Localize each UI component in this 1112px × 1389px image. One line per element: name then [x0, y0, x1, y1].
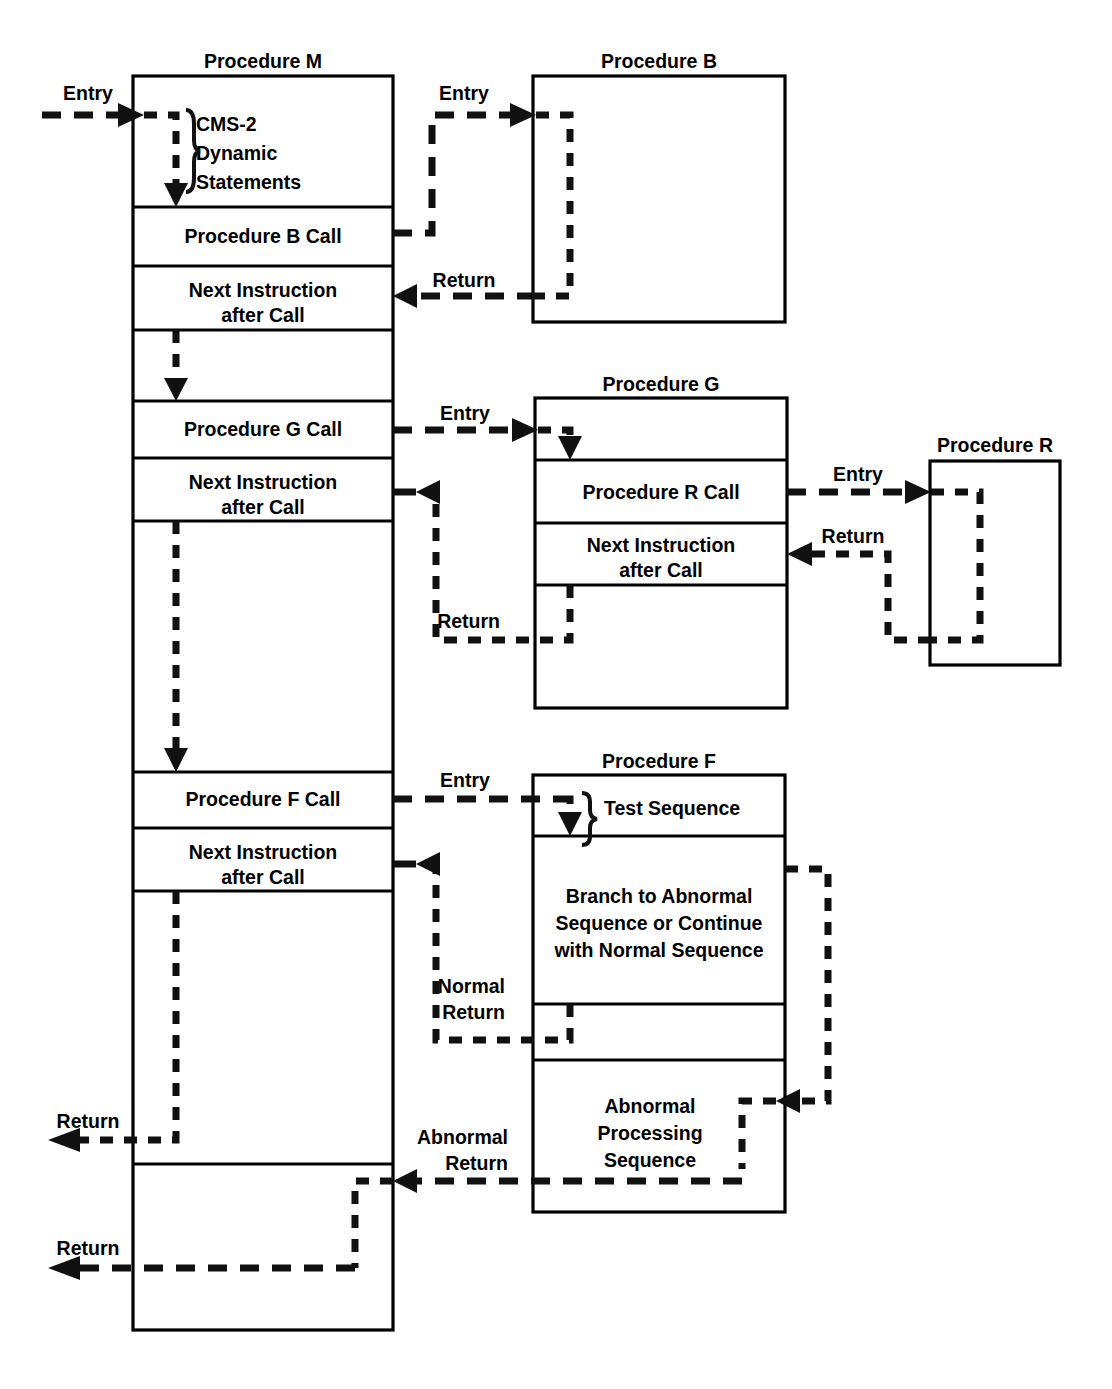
m-cell-procedure-f-call: Procedure F Call — [186, 788, 341, 810]
diagram-canvas: Procedure M CMS-2 Dynamic Statements Pro… — [0, 0, 1112, 1389]
flow-label-return-m-upper: Return — [57, 1110, 120, 1132]
flow-label-return-b: Return — [433, 269, 496, 291]
procedure-b-title: Procedure B — [601, 50, 717, 72]
flow-label-return-m-lower: Return — [57, 1237, 120, 1259]
m-cell-dynamic-line3: Statements — [196, 171, 301, 193]
f-cell-abnormal-line3: Sequence — [604, 1149, 696, 1171]
f-cell-branch-line1: Branch to Abnormal — [566, 885, 753, 907]
f-cell-branch-line3: with Normal Sequence — [553, 939, 763, 961]
f-cell-abnormal-line1: Abnormal — [604, 1095, 695, 1117]
procedure-m-title: Procedure M — [204, 50, 322, 72]
arrowhead-return-m-lower — [48, 1256, 80, 1280]
flow-label-entry-b: Entry — [439, 82, 489, 104]
flow-line-branch-abnormal — [785, 869, 828, 1101]
flow-label-entry-r: Entry — [833, 463, 883, 485]
f-cell-abnormal-line2: Processing — [597, 1122, 702, 1144]
flow-label-abnormal-return-line1: Abnormal — [417, 1126, 508, 1148]
flow-return-b: Return — [393, 269, 536, 308]
g-cell-next-instruction-line1: Next Instruction — [587, 534, 735, 556]
m-cell-next-instruction-1-line1: Next Instruction — [189, 279, 337, 301]
procedure-g-group: Procedure G Procedure R Call Next Instru… — [535, 373, 787, 708]
m-cell-next-instruction-1-line2: after Call — [221, 304, 304, 326]
arrowhead-return-b — [393, 284, 417, 308]
flow-label-abnormal-return-line2: Return — [445, 1152, 508, 1174]
m-cell-next-instruction-3-line1: Next Instruction — [189, 841, 337, 863]
procedure-f-box — [533, 775, 785, 1212]
flow-label-entry-g: Entry — [440, 402, 490, 424]
procedure-r-title: Procedure R — [937, 434, 1053, 456]
g-cell-next-instruction-line2: after Call — [619, 559, 702, 581]
arrowhead-return-r — [787, 542, 812, 566]
flow-label-normal-return-line2: Return — [442, 1001, 505, 1023]
procedure-r-box — [930, 461, 1060, 665]
procedure-f-title: Procedure F — [602, 750, 716, 772]
arrowhead-normal-return — [416, 852, 440, 876]
arrowhead-entry-r — [905, 480, 931, 504]
m-cell-procedure-g-call: Procedure G Call — [184, 418, 342, 440]
procedure-flow-diagram: Procedure M CMS-2 Dynamic Statements Pro… — [0, 0, 1112, 1389]
flow-line-return-r — [812, 554, 931, 640]
procedure-r-group: Procedure R — [930, 434, 1060, 665]
f-cell-branch-line2: Sequence or Continue — [556, 912, 763, 934]
m-cell-next-instruction-2-line1: Next Instruction — [189, 471, 337, 493]
flow-label-entry-m: Entry — [63, 82, 113, 104]
arrowhead-return-g — [416, 480, 440, 504]
flow-line-entry-b — [393, 115, 510, 233]
flow-label-return-r: Return — [822, 525, 885, 547]
flow-return-r: Return — [787, 525, 931, 640]
flow-label-normal-return-line1: Normal — [438, 975, 505, 997]
m-cell-procedure-b-call: Procedure B Call — [184, 225, 341, 247]
procedure-g-title: Procedure G — [602, 373, 719, 395]
f-cell-test-sequence: Test Sequence — [604, 797, 740, 819]
arrowhead-abnormal-return — [393, 1169, 417, 1193]
m-cell-dynamic-line2: Dynamic — [196, 142, 277, 164]
flow-label-entry-f: Entry — [440, 769, 490, 791]
m-cell-next-instruction-2-line2: after Call — [221, 496, 304, 518]
flow-label-return-g: Return — [437, 610, 500, 632]
m-cell-next-instruction-3-line2: after Call — [221, 866, 304, 888]
g-cell-procedure-r-call: Procedure R Call — [582, 481, 739, 503]
m-cell-dynamic-line1: CMS-2 — [196, 113, 257, 135]
